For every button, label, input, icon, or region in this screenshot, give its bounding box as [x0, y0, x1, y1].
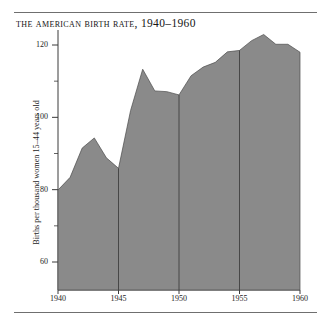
x-tick-label: 1940 [38, 294, 78, 303]
x-tick-label: 1950 [159, 294, 199, 303]
y-tick-label: 60 [18, 257, 48, 266]
chart-figure: The American Birth Rate, 1940–1960 Birth… [0, 0, 331, 329]
x-tick-label: 1945 [99, 294, 139, 303]
chart-plot-area [0, 0, 331, 329]
x-tick-label: 1960 [280, 294, 320, 303]
y-tick-label: 100 [18, 112, 48, 121]
y-tick-label: 120 [18, 40, 48, 49]
x-tick-label: 1955 [220, 294, 260, 303]
y-tick-label: 80 [18, 185, 48, 194]
